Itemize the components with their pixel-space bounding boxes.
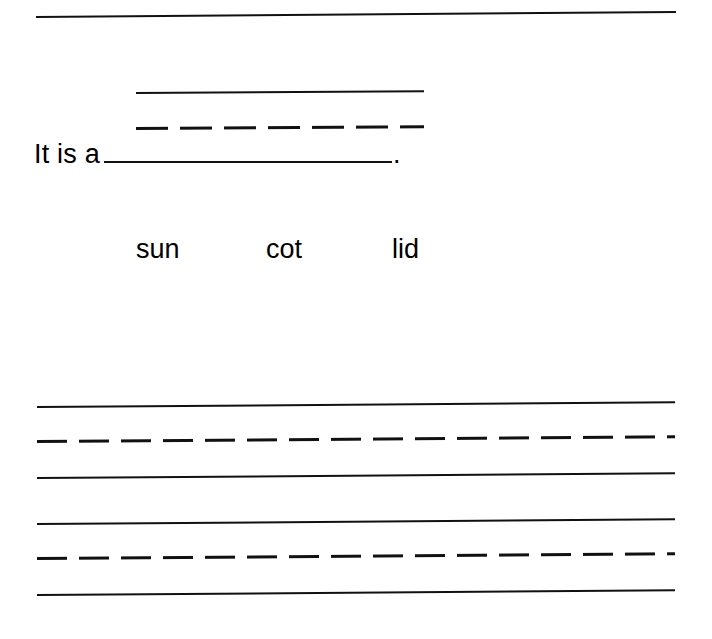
practice-line-1-mid-dashed [37,435,675,443]
practice-line-1-baseline-solid [37,472,675,479]
sentence-period: . [393,139,401,169]
sentence-prefix-text: It is a [34,139,100,169]
word-bank: sun cot lid [136,232,446,270]
practice-line-1-top-solid [37,401,675,408]
sentence-guide-top-line [136,90,424,94]
worksheet-page: It is a . sun cot lid [0,0,712,639]
practice-line-2-mid-dashed [37,552,675,560]
word-choice-3[interactable]: lid [392,232,419,266]
header-divider-rule [36,11,676,18]
word-choice-2[interactable]: cot [266,232,302,266]
sentence-row: It is a . [34,137,400,169]
practice-line-2-baseline-solid [37,589,675,596]
sentence-guide-mid-dashed-line [136,125,424,130]
word-choice-1[interactable]: sun [136,232,180,266]
practice-line-2-top-solid [37,518,675,525]
answer-blank-input[interactable] [104,137,392,163]
